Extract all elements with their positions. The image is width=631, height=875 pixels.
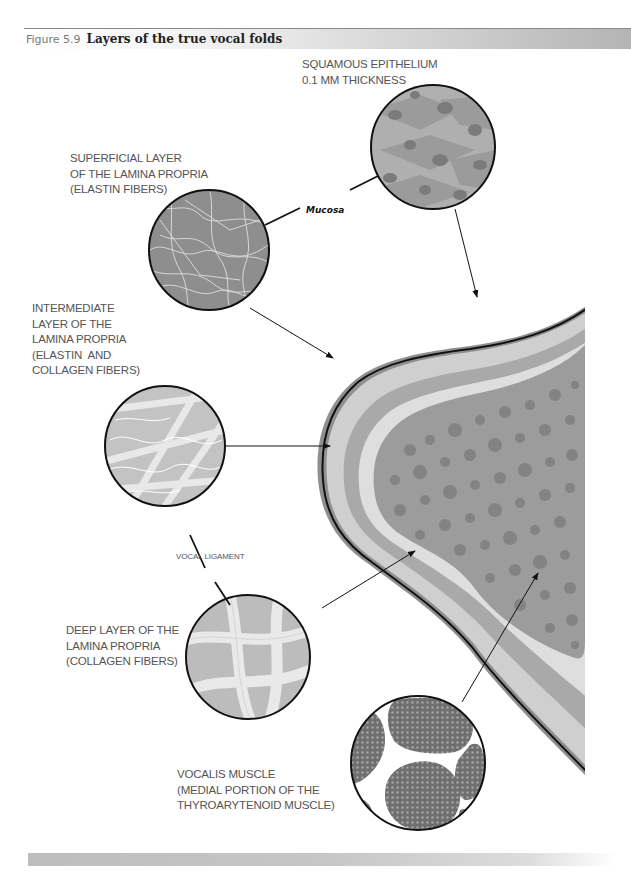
label-superficial-layer: SUPERFICIAL LAYER OF THE LAMINA PROPRIA … — [70, 151, 208, 198]
footer-gradient-bar — [28, 853, 616, 866]
arrow-epithelium — [455, 209, 477, 297]
label-intermediate-layer: INTERMEDIATE LAYER OF THE LAMINA PROPRIA… — [32, 301, 140, 379]
vocal-fold-diagram — [0, 0, 631, 875]
mucosa-connector-right — [350, 176, 378, 190]
label-mucosa: Mucosa — [306, 205, 344, 215]
label-vocal-ligament: VOCAL LIGAMENT — [176, 549, 245, 565]
label-squamous-epithelium: SQUAMOUS EPITHELIUM 0.1 MM THICKNESS — [302, 57, 438, 88]
label-vocalis-muscle: VOCALIS MUSCLE (MEDIAL PORTION OF THE TH… — [177, 767, 335, 814]
label-deep-layer: DEEP LAYER OF THE LAMINA PROPRIA (COLLAG… — [66, 623, 179, 670]
mucosa-connector-left — [265, 208, 300, 225]
arrow-superficial — [250, 308, 333, 358]
